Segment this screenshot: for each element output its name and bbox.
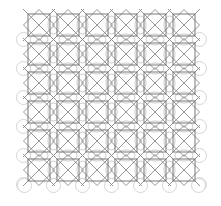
pattern-canvas [0,0,221,206]
tiling-pattern-svg [0,0,221,206]
